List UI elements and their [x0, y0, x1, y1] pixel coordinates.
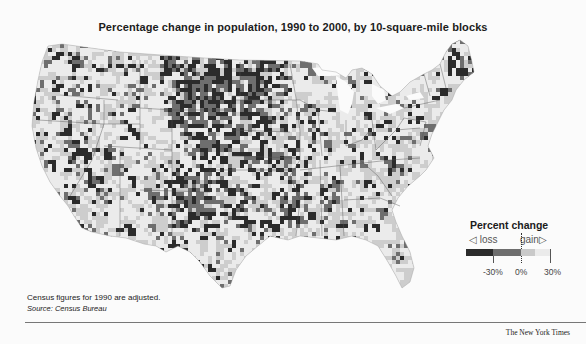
- legend-color-bar: [466, 249, 550, 256]
- credit-line: The New York Times: [506, 328, 570, 337]
- footer-rule: [25, 322, 586, 323]
- source-note: Source: Census Bureau: [27, 304, 107, 313]
- footnote: Census figures for 1990 are adjusted.: [27, 293, 160, 302]
- legend-swatch-loss: [493, 249, 521, 256]
- legend-loss-label: ◁ loss: [469, 234, 498, 245]
- map-title: Percentage change in population, 1990 to…: [0, 21, 586, 33]
- legend-tick-neg30: [493, 256, 494, 263]
- legend-swatch-gain: [521, 249, 535, 256]
- legend-tick-label-zero: 0%: [515, 267, 527, 277]
- legend-tick-label-neg30: -30%: [483, 267, 503, 277]
- legend-gain-label: gain▷: [520, 234, 547, 245]
- legend-tick-pos30: [550, 249, 551, 263]
- legend-zero-line: [521, 233, 522, 263]
- legend-swatch-strong-gain: [535, 249, 550, 256]
- legend-swatch-heavy-loss: [466, 249, 493, 256]
- legend-title: Percent change: [470, 219, 548, 231]
- legend-tick-label-pos30: 30%: [544, 267, 561, 277]
